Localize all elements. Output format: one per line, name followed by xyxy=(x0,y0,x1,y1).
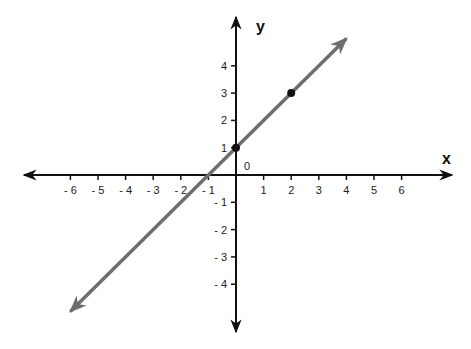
x-tick-label: - 4 xyxy=(119,184,132,196)
data-point xyxy=(287,89,295,97)
y-tick-label: 4 xyxy=(221,60,227,72)
x-tick-label: 2 xyxy=(288,184,294,196)
y-tick-label: - 4 xyxy=(214,278,227,290)
axes xyxy=(24,17,452,332)
coordinate-plane: - 6- 5- 4- 3- 2- 1123456 - 4- 3- 2- 1123… xyxy=(0,0,471,349)
y-tick-label: 1 xyxy=(221,142,227,154)
x-tick-label: 1 xyxy=(261,184,267,196)
x-tick-label: - 6 xyxy=(64,184,77,196)
x-tick-label: - 1 xyxy=(202,184,215,196)
x-tick-label: 6 xyxy=(399,184,405,196)
x-tick-label: 5 xyxy=(371,184,377,196)
x-ticks: - 6- 5- 4- 3- 2- 1123456 xyxy=(64,175,405,196)
x-tick-label: 4 xyxy=(343,184,349,196)
x-axis-label: x xyxy=(442,150,451,167)
x-tick-label: - 2 xyxy=(174,184,187,196)
y-tick-label: 3 xyxy=(221,87,227,99)
y-axis-label: y xyxy=(256,18,265,35)
y-tick-label: - 1 xyxy=(214,196,227,208)
y-tick-label: - 2 xyxy=(214,224,227,236)
x-tick-label: - 3 xyxy=(147,184,160,196)
y-tick-label: 2 xyxy=(221,114,227,126)
x-tick-label: - 5 xyxy=(92,184,105,196)
x-tick-label: 3 xyxy=(316,184,322,196)
data-point xyxy=(232,144,240,152)
origin-label: 0 xyxy=(244,160,250,172)
y-tick-label: - 3 xyxy=(214,251,227,263)
